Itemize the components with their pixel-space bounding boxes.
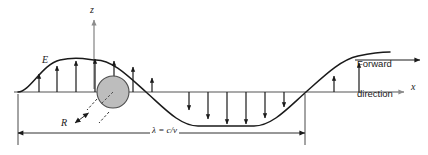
forward-direction-line-2: direction [357,89,393,99]
scattering-sphere [97,76,129,108]
field-arrows-up [39,59,152,92]
electric-field-label: E [42,55,48,66]
forward-direction-line-1: Forward [357,59,393,69]
figure-container: z x E R λ = c/ν Forward direction [0,0,428,155]
x-axis-label: x [411,82,415,93]
field-arrows-up-right [334,63,359,92]
radius-label: R [61,118,67,129]
z-axis-label: z [90,5,94,16]
field-arrows-down [189,92,284,124]
forward-direction-label: Forward direction [357,39,393,119]
wavelength-label: λ = c/ν [150,126,179,135]
